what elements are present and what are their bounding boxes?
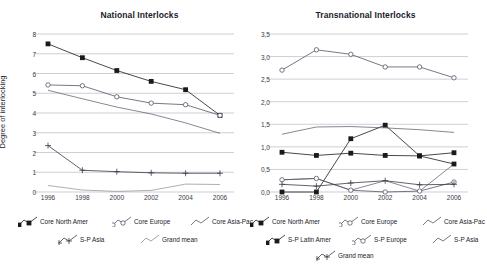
series-line (48, 184, 220, 191)
data-point-marker (149, 101, 153, 105)
y-tick-label: 7 (10, 50, 36, 57)
data-point-marker (314, 48, 318, 52)
data-point-marker (339, 223, 342, 227)
legend-line (141, 235, 159, 243)
legend-key-icon (316, 250, 336, 261)
legend-label: Core Europe (134, 218, 170, 225)
x-tick-label: 1998 (75, 194, 89, 201)
legend-line (317, 251, 335, 259)
legend-line (423, 217, 441, 225)
series-grand-mean (279, 178, 457, 189)
data-point-marker (452, 162, 457, 167)
data-point-marker (80, 55, 85, 60)
data-point-marker (383, 65, 387, 69)
legend-label: S-P Europe (374, 236, 407, 243)
data-point-marker (259, 221, 264, 226)
series-s-p-latin-amer (280, 123, 457, 195)
series-line (48, 146, 220, 174)
plot-area-left (40, 34, 228, 192)
y-tick-label: 0,5 (244, 166, 270, 173)
series-core-asia-pac (282, 164, 454, 191)
y-tick-label: 2 (10, 149, 36, 156)
legend-label: Grand mean (162, 236, 198, 243)
series-line (282, 50, 454, 78)
series-core-europe (280, 48, 456, 80)
series-core-asia-pac (48, 90, 220, 133)
y-tick-label: 6 (10, 70, 36, 77)
data-point-marker (314, 176, 318, 180)
x-tick-label: 1996 (275, 194, 289, 201)
panel-national-interlocks: National Interlocks Degree of interlocki… (0, 0, 243, 268)
legend-item[interactable]: S-P Asia (58, 234, 104, 245)
legend-item[interactable]: S-P Latin Amer (266, 234, 331, 245)
legend-label: S-P Asia (454, 236, 478, 243)
legend-item[interactable]: Core North Amer (250, 216, 320, 227)
legend-key-icon (422, 216, 442, 227)
legend-item[interactable]: Core North Amer (18, 216, 88, 227)
data-point-marker (149, 79, 154, 84)
data-point-marker (452, 150, 457, 155)
legend-label: Core North Amer (272, 218, 320, 225)
legend-line (433, 235, 451, 243)
series-core-europe (46, 83, 222, 118)
legend-key-icon (140, 234, 160, 245)
x-tick-label: 2000 (344, 194, 358, 201)
legend-key-icon (190, 216, 210, 227)
data-point-marker (314, 153, 319, 158)
series-line (282, 127, 454, 135)
legend-key-icon (250, 216, 270, 227)
data-point-marker (183, 87, 188, 92)
y-tick-label: 5 (10, 90, 36, 97)
legend-key-icon (266, 234, 286, 245)
data-point-marker (348, 151, 353, 156)
x-tick-label: 2006 (213, 194, 227, 201)
data-point-marker (115, 95, 119, 99)
series-core-north-amer (280, 150, 457, 158)
panel-transnational-interlocks: Transnational Interlocks 0,00,51,01,52,0… (244, 0, 487, 268)
legend-key-icon (112, 216, 132, 227)
data-point-marker (417, 189, 421, 193)
data-point-marker (280, 68, 284, 72)
data-point-marker (46, 83, 50, 87)
y-tick-label: 1 (10, 169, 36, 176)
chart-title-right: Transnational Interlocks (244, 10, 487, 20)
legend-key-icon (58, 234, 78, 245)
legend-item[interactable]: Core Europe (112, 216, 170, 227)
x-tick-label: 2004 (412, 194, 426, 201)
data-point-marker (112, 223, 115, 227)
data-point-marker (114, 68, 119, 73)
legend-key-icon (18, 216, 38, 227)
legend-line (59, 235, 77, 243)
y-tick-label: 1,5 (244, 121, 270, 128)
y-tick-label: 4 (10, 110, 36, 117)
x-tick-label: 1996 (41, 194, 55, 201)
series-grand-mean (48, 184, 220, 191)
x-tick-label: 2000 (110, 194, 124, 201)
data-point-marker (266, 241, 269, 245)
legend-label: Core North Amer (40, 218, 88, 225)
series-core-north-amer (46, 41, 223, 117)
data-point-marker (417, 65, 421, 69)
series-line (48, 44, 220, 115)
y-axis-label-left: Degree of interlocking (0, 76, 7, 149)
legend-item[interactable]: Grand mean (316, 250, 374, 261)
data-point-marker (452, 76, 456, 80)
legend-item[interactable]: Grand mean (140, 234, 198, 245)
data-point-marker (349, 188, 353, 192)
data-point-marker (46, 41, 51, 46)
legend-label: Core Asia-Pac (444, 218, 485, 225)
legend-item[interactable]: S-P Asia (432, 234, 478, 245)
data-point-marker (218, 113, 222, 117)
series-s-p-asia (45, 143, 223, 177)
legend-item[interactable]: Core Asia-Pac (422, 216, 485, 227)
y-tick-label: 3 (10, 129, 36, 136)
x-tick-label: 2006 (447, 194, 461, 201)
legend-line (191, 217, 209, 225)
y-tick-label: 8 (10, 31, 36, 38)
series-line (282, 152, 454, 156)
x-tick-label: 2002 (378, 194, 392, 201)
legend-item[interactable]: Core Europe (339, 216, 397, 227)
y-tick-label: 0,0 (244, 189, 270, 196)
legend-key-icon (339, 216, 359, 227)
legend-item[interactable]: S-P Europe (352, 234, 407, 245)
